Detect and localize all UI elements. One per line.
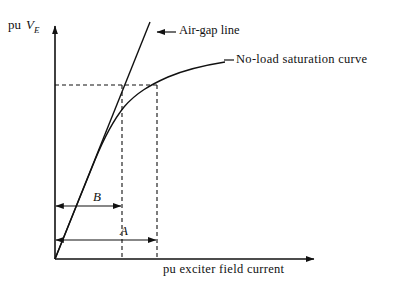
no-load-saturation-curve bbox=[55, 62, 225, 259]
y-axis-symbol: V bbox=[26, 17, 34, 32]
air-gap-line-label: Air-gap line bbox=[179, 24, 240, 37]
y-axis-unit: pu bbox=[8, 17, 21, 32]
y-axis-subscript: E bbox=[34, 25, 40, 35]
segment-b-label: B bbox=[93, 190, 101, 203]
x-axis-label: pu exciter field current bbox=[163, 263, 284, 276]
exciter-saturation-diagram bbox=[0, 0, 398, 295]
segment-a-label: A bbox=[120, 224, 128, 237]
y-axis-label: puVE bbox=[8, 18, 39, 35]
no-load-saturation-curve-label: No-load saturation curve bbox=[236, 53, 367, 66]
